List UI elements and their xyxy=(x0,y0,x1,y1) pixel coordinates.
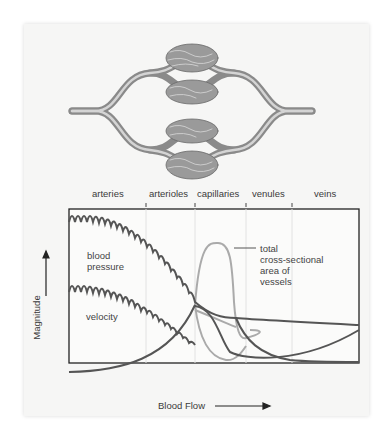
label-arterioles: arterioles xyxy=(149,188,188,199)
label-veins: veins xyxy=(314,188,336,199)
y-axis-label: Magnitude xyxy=(31,295,42,339)
cross-section-label: total cross-sectional area of vessels xyxy=(260,243,323,287)
cross-section-label-line4: vessels xyxy=(260,276,323,287)
x-axis-label: Blood Flow xyxy=(158,400,205,411)
label-venules: venules xyxy=(252,188,285,199)
blood-pressure-label: blood pressure xyxy=(87,250,124,272)
label-capillaries: capillaries xyxy=(197,188,239,199)
velocity-label: velocity xyxy=(86,311,118,322)
circulation-diagram xyxy=(0,0,384,431)
blood-pressure-label-line1: blood xyxy=(87,250,124,261)
category-ticks xyxy=(146,203,292,207)
magnitude-arrow xyxy=(43,251,49,296)
blood-pressure-label-line2: pressure xyxy=(87,261,124,272)
cross-section-label-line2: cross-sectional xyxy=(260,254,323,265)
label-arteries: arteries xyxy=(92,188,124,199)
cross-section-label-line3: area of xyxy=(260,265,323,276)
cross-section-label-line1: total xyxy=(260,243,323,254)
vessel-network xyxy=(72,44,312,179)
blood-flow-arrow xyxy=(215,403,270,409)
